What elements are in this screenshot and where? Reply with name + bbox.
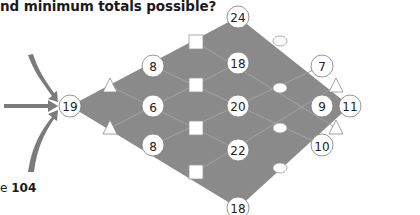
node-label: 8 bbox=[149, 60, 157, 74]
square-icon bbox=[189, 78, 203, 92]
diamond-background bbox=[70, 17, 350, 208]
arrow-top-icon bbox=[28, 54, 58, 102]
node-label: 18 bbox=[230, 57, 245, 71]
square-icon bbox=[189, 35, 203, 49]
square-icon bbox=[189, 121, 203, 135]
node-end-label: 11 bbox=[342, 100, 357, 114]
node-label: 7 bbox=[318, 60, 326, 74]
triangle-icon bbox=[329, 78, 343, 92]
node-start-label: 19 bbox=[62, 100, 77, 114]
entry-arrows bbox=[4, 54, 58, 172]
node-label: 9 bbox=[318, 100, 326, 114]
oval-icon bbox=[273, 83, 287, 93]
arrow-bottom-icon bbox=[28, 110, 58, 172]
oval-icon bbox=[273, 123, 287, 133]
puzzle-diagram: 19 11 8 6 8 24 18 20 22 18 7 9 10 bbox=[0, 0, 420, 215]
node-label: 24 bbox=[230, 11, 245, 25]
oval-icon bbox=[273, 163, 287, 173]
node-label: 22 bbox=[230, 144, 245, 158]
arrow-middle-icon bbox=[4, 100, 58, 112]
node-label: 18 bbox=[230, 202, 245, 215]
node-label: 10 bbox=[314, 140, 329, 154]
node-label: 8 bbox=[149, 140, 157, 154]
node-label: 20 bbox=[230, 100, 245, 114]
square-icon bbox=[189, 165, 203, 179]
node-label: 6 bbox=[149, 101, 157, 115]
oval-icon bbox=[273, 36, 287, 46]
